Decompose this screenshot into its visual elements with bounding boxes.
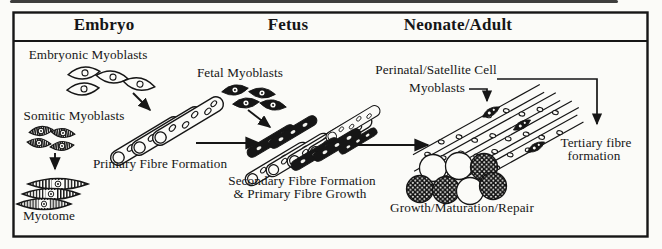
label-perinatal-satellite-cell-line2: Myoblasts <box>409 81 465 95</box>
label-myotome: Myotome <box>23 209 75 223</box>
muscle-development-figure: Embryo Fetus Neonate/Adult Embryonic Myo… <box>0 0 662 249</box>
arrow-myoblasts-to-fibre <box>469 89 487 101</box>
label-somitic-myoblasts: Somitic Myoblasts <box>24 109 125 123</box>
arrow-fetal-to-secondary <box>248 110 270 127</box>
label-secondary-fibre-formation-line2: & Primary Fibre Growth <box>234 187 367 201</box>
fibre-cross-sections <box>407 153 507 205</box>
fetal-myoblast-cells <box>221 83 287 112</box>
label-tertiary-fibre-line2: formation <box>568 149 621 163</box>
somitic-myoblast-cells <box>27 125 75 151</box>
label-growth-maturation-repair: Growth/Maturation/Repair <box>390 201 534 215</box>
label-perinatal-satellite-cell-line1: Perinatal/Satellite Cell <box>375 63 496 77</box>
diagram-graphics <box>0 0 662 249</box>
stage-header-embryo: Embryo <box>74 16 135 34</box>
scan-artifact-streak <box>10 0 618 3</box>
label-embryonic-myoblasts: Embryonic Myoblasts <box>29 48 148 62</box>
stage-header-neonate-adult: Neonate/Adult <box>404 16 512 34</box>
embryonic-myoblast-cells <box>67 65 156 96</box>
stage-header-fetus: Fetus <box>268 16 309 34</box>
myotome-cells <box>17 179 88 210</box>
arrow-embryonic-to-primary <box>133 93 150 110</box>
label-fetal-myoblasts: Fetal Myoblasts <box>197 66 283 80</box>
label-primary-fibre-formation: Primary Fibre Formation <box>93 157 227 171</box>
